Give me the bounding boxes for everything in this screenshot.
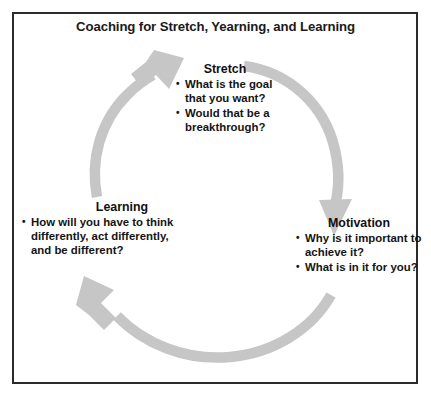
stage-stretch: Stretch What is the goal that you want? … [176, 62, 288, 136]
stage-motivation-bullets: Why is it important to achieve it? What … [296, 232, 422, 275]
stage-learning: Learning How will you have to think diff… [22, 200, 186, 259]
page-title: Coaching for Stretch, Yearning, and Lear… [0, 20, 431, 35]
stage-stretch-heading: Stretch [176, 62, 288, 76]
stage-motivation: Motivation Why is it important to achiev… [296, 216, 422, 276]
list-item: What is in it for you? [296, 261, 422, 275]
stage-stretch-bullets: What is the goal that you want? Would th… [176, 78, 288, 135]
list-item: Would that be a breakthrough? [176, 107, 288, 135]
list-item: What is the goal that you want? [176, 78, 288, 106]
stage-motivation-heading: Motivation [296, 216, 422, 230]
list-item: How will you have to think differently, … [22, 216, 186, 258]
list-item: Why is it important to achieve it? [296, 232, 422, 260]
stage-learning-heading: Learning [22, 200, 186, 214]
stage-learning-bullets: How will you have to think differently, … [22, 216, 186, 258]
